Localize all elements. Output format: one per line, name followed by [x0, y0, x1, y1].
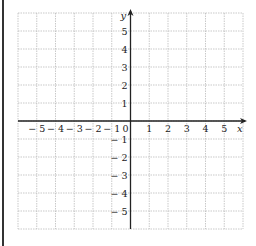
x-axis-label: x	[237, 123, 243, 134]
x-tick-label: − 1	[103, 123, 120, 134]
y-tick-label: 2	[121, 80, 127, 91]
y-tick-label: 1	[121, 98, 127, 109]
y-tick-label: − 2	[110, 152, 127, 163]
y-tick-label: 5	[121, 26, 127, 37]
x-tick-label: 1	[146, 123, 152, 134]
x-tick-label: − 2	[84, 123, 101, 134]
y-tick-label: 4	[121, 44, 127, 55]
x-tick-label: − 5	[28, 123, 45, 134]
x-tick-label: − 4	[47, 123, 64, 134]
x-tick-label: 4	[202, 123, 208, 134]
x-tick-label: 3	[184, 123, 190, 134]
y-tick-label: − 5	[110, 206, 127, 217]
coordinate-plane: − 5− 4− 3− 2− 1012345− 5− 4− 3− 2− 11234…	[0, 0, 256, 246]
axes	[18, 9, 247, 229]
x-tick-label: 5	[221, 123, 227, 134]
x-tick-label: 2	[165, 123, 171, 134]
y-axis-label: y	[120, 10, 127, 21]
y-tick-label: 3	[121, 62, 127, 73]
y-tick-label: − 3	[110, 170, 127, 181]
y-tick-label: − 4	[110, 188, 127, 199]
x-tick-label: − 3	[66, 123, 83, 134]
y-tick-label: − 1	[110, 134, 127, 145]
x-tick-label: 0	[122, 123, 128, 134]
